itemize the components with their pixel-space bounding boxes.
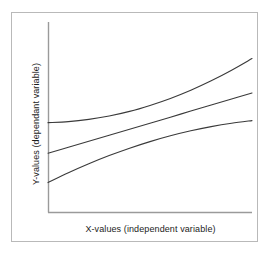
y-axis-label: Y-values (dependant variable) [29, 29, 43, 219]
series-line-decelerating [48, 121, 252, 183]
series-line-linear [48, 93, 252, 153]
x-axis-label: X-values (independent variable) [48, 223, 253, 235]
series-line-accelerating [48, 59, 252, 123]
chart-figure: Y-values (dependant variable) X-values (… [0, 0, 271, 255]
